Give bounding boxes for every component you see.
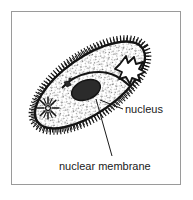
label-nucleus: nucleus bbox=[125, 103, 163, 115]
label-nuclear-membrane: nuclear membrane bbox=[59, 160, 151, 172]
paramecium-diagram: nucleus nuclear membrane bbox=[0, 0, 193, 200]
figure-root: nucleus nuclear membrane bbox=[0, 0, 193, 200]
